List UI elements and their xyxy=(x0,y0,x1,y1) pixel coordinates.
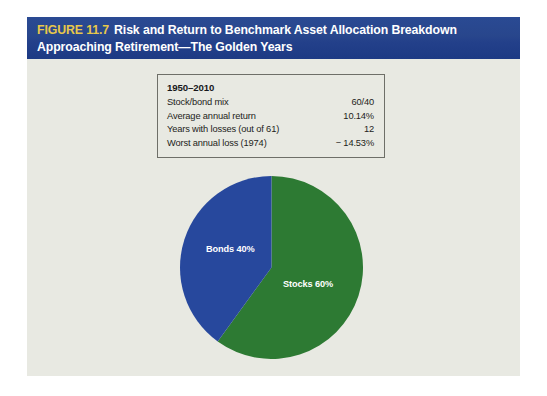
pie-slice-label-stocks: Stocks 60% xyxy=(283,279,333,289)
figure-title-line-2: Approaching Retirement—The Golden Years xyxy=(37,39,520,56)
table-period-header: 1950–2010 xyxy=(167,82,374,93)
figure-container: FIGURE 11.7Risk and Return to Benchmark … xyxy=(0,0,547,396)
table-row-label: Worst annual loss (1974) xyxy=(167,137,267,151)
table-row-value: − 14.53% xyxy=(336,137,374,151)
table-row: Worst annual loss (1974) − 14.53% xyxy=(167,137,374,151)
asset-allocation-pie-chart: Bonds 40% Stocks 60% xyxy=(180,176,363,359)
pie-slice-label-bonds: Bonds 40% xyxy=(206,244,255,254)
table-row-value: 10.14% xyxy=(343,110,374,124)
summary-statistics-table: 1950–2010 Stock/bond mix 60/40 Average a… xyxy=(157,74,385,158)
figure-number-label: FIGURE 11.7 xyxy=(37,23,109,37)
table-row: Years with losses (out of 61) 12 xyxy=(167,123,374,137)
table-row-value: 12 xyxy=(364,123,374,137)
figure-title-line-1: FIGURE 11.7Risk and Return to Benchmark … xyxy=(37,22,520,39)
table-row: Average annual return 10.14% xyxy=(167,110,374,124)
table-row-label: Years with losses (out of 61) xyxy=(167,123,279,137)
table-row: Stock/bond mix 60/40 xyxy=(167,96,374,110)
table-row-value: 60/40 xyxy=(351,96,374,110)
table-row-label: Stock/bond mix xyxy=(167,96,228,110)
pie-chart-svg xyxy=(180,176,363,359)
table-row-label: Average annual return xyxy=(167,110,256,124)
figure-content-panel: 1950–2010 Stock/bond mix 60/40 Average a… xyxy=(27,59,520,376)
figure-title-text-1: Risk and Return to Benchmark Asset Alloc… xyxy=(114,23,457,37)
figure-header-banner: FIGURE 11.7Risk and Return to Benchmark … xyxy=(27,17,520,59)
